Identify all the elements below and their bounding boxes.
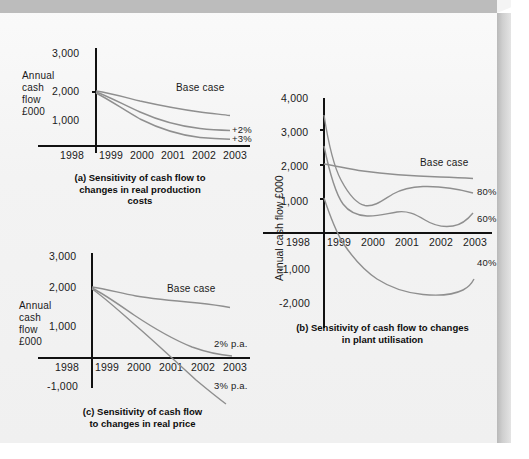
figure-page: 3,000 2,000 1,000 Annual cash flow £000 …	[0, 0, 529, 459]
chart-b-caption: (b) Sensitivity of cash flow to changes …	[275, 322, 490, 345]
chart-b-series-label-60: 60%	[477, 213, 497, 224]
chart-c-caption: (c) Sensitivity of cash flow to changes …	[60, 406, 225, 429]
chart-b-series-label-80: 80%	[477, 186, 497, 197]
chart-a-caption: (a) Sensitivity of cash flow to changes …	[60, 172, 220, 207]
chart-c-series-label-2pa: 2% p.a.	[214, 338, 248, 349]
chart-b-series-label-base-case: Base case	[420, 157, 469, 168]
chart-a-series-base-case	[96, 91, 230, 116]
chart-b-series-label-40: 40%	[477, 257, 497, 268]
chart-c: 3,000 2,000 1,000 -1,000 Annual cash flo…	[0, 230, 265, 459]
chart-a-series-plus2	[96, 92, 230, 131]
chart-c-series-2pa	[92, 288, 232, 356]
chart-c-series-label-base-case: Base case	[167, 283, 216, 294]
chart-b-series-40	[324, 198, 474, 295]
chart-a-series-plus3	[96, 93, 230, 139]
chart-c-series-3pa	[92, 289, 226, 404]
chart-c-series-label-3pa: 3% p.a.	[214, 380, 248, 391]
